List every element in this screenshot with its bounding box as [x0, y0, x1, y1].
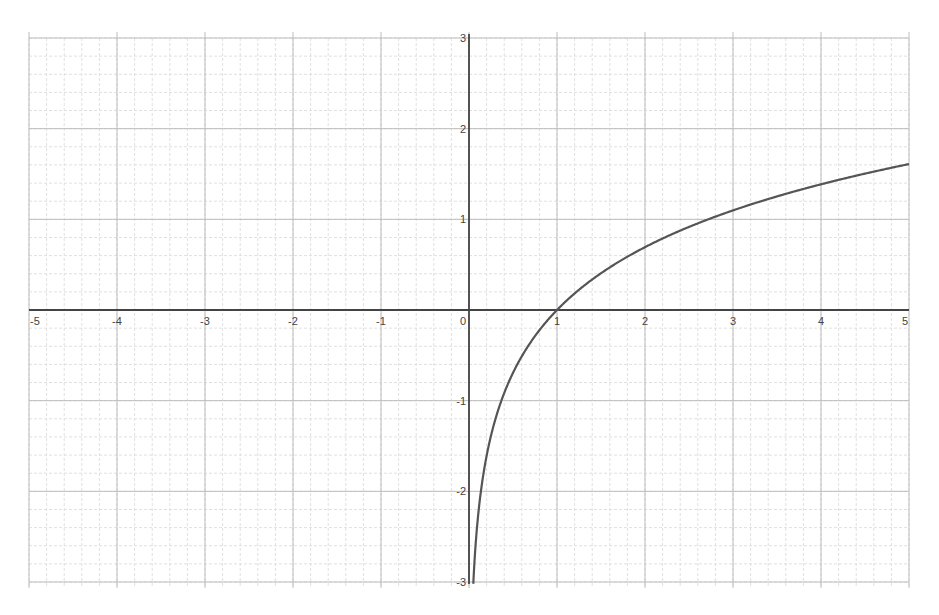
y-tick-label: -1	[456, 395, 466, 407]
x-tick-label: 2	[642, 315, 648, 327]
x-tick-label: 3	[730, 315, 736, 327]
x-tick-label: -1	[376, 315, 386, 327]
axes	[29, 34, 909, 584]
y-tick-label: -3	[456, 576, 466, 588]
x-tick-label: 1	[554, 315, 560, 327]
y-tick-label: 1	[460, 213, 466, 225]
y-tick-label: 3	[460, 32, 466, 44]
x-tick-label: -4	[112, 315, 122, 327]
function-plot: -5-4-3-2-1012345 321-1-2-3	[0, 0, 939, 615]
ln-curve	[473, 164, 909, 584]
x-tick-label: 0	[460, 315, 466, 327]
x-tick-label: 5	[902, 315, 908, 327]
x-tick-label: -2	[288, 315, 298, 327]
x-tick-label: -3	[200, 315, 210, 327]
x-tick-label: -5	[30, 315, 40, 327]
y-tick-label: 2	[460, 123, 466, 135]
y-tick-label: -2	[456, 485, 466, 497]
x-tick-label: 4	[818, 315, 824, 327]
